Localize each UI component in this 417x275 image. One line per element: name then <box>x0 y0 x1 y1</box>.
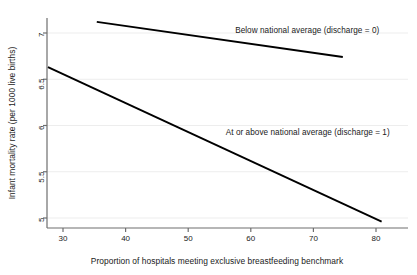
axis-lines <box>47 18 408 228</box>
y-tick-label: 6.5 <box>37 79 46 97</box>
x-tick-label: 60 <box>237 234 265 243</box>
x-tick-label: 30 <box>49 234 77 243</box>
chart-figure: Infant mortality rate (per 1000 live bir… <box>0 0 417 275</box>
y-tick-label: 7 <box>37 33 46 51</box>
y-axis-title: Infant mortality rate (per 1000 live bir… <box>7 33 17 213</box>
x-tick-label: 50 <box>174 234 202 243</box>
y-tick-label: 6 <box>37 125 46 143</box>
x-axis-title: Proportion of hospitals meeting exclusiv… <box>47 256 387 266</box>
y-tick-label: 5 <box>37 218 46 236</box>
series-label-0: Below national average (discharge = 0) <box>235 26 379 35</box>
x-tick-label: 70 <box>299 234 327 243</box>
series-label-1: At or above national average (discharge … <box>226 128 390 137</box>
y-tick-label: 5.5 <box>37 171 46 189</box>
gridlines <box>47 33 408 218</box>
x-tick-label: 40 <box>112 234 140 243</box>
data-series <box>48 22 382 222</box>
x-tick-label: 80 <box>362 234 390 243</box>
series-line-1 <box>48 67 382 221</box>
